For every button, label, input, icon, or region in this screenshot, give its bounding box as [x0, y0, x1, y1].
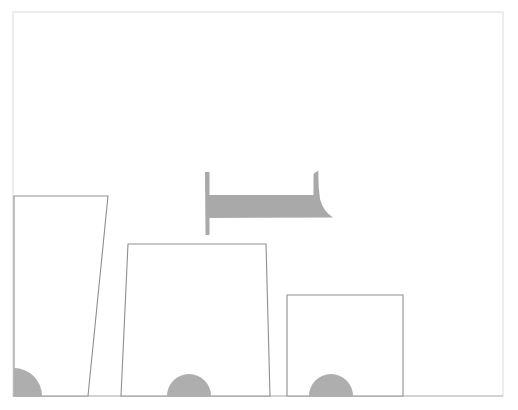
left-block — [14, 196, 108, 396]
figure-svg — [0, 0, 518, 410]
middle-block — [121, 244, 270, 396]
gray-beam — [205, 171, 333, 235]
image-canvas — [0, 0, 518, 410]
